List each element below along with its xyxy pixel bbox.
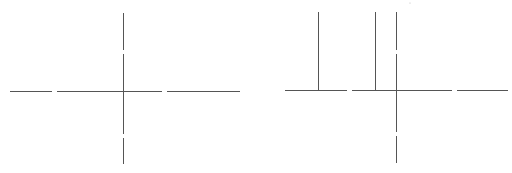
diagram-canvas: [0, 0, 512, 173]
right-y-tick-gap-positive: [395, 50, 398, 54]
right-x-tick-gap-positive: [452, 89, 457, 92]
right-corner-dot: [409, 2, 410, 3]
left-x-tick-gap-negative: [52, 90, 57, 93]
left-y-tick-gap-negative: [122, 134, 125, 138]
left-axes-panel: [10, 13, 240, 164]
right-x-tick-gap-negative: [347, 89, 352, 92]
left-x-tick-gap-positive: [162, 90, 167, 93]
left-y-tick-gap-positive: [122, 50, 125, 54]
right-y-tick-gap-negative: [395, 132, 398, 136]
right-axes-panel: [285, 2, 508, 163]
